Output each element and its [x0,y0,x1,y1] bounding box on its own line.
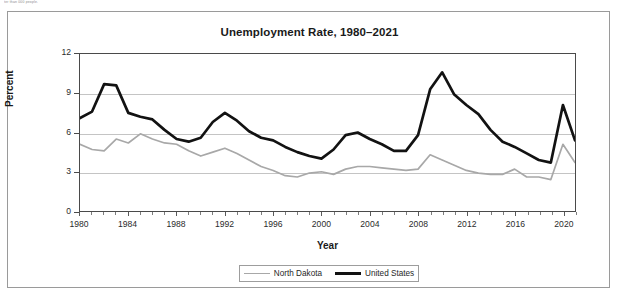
x-tick-mark-2021 [576,212,577,215]
data-series-lines [80,54,575,211]
x-tick-mark-1983 [115,212,116,215]
x-tick-label-2016: 2016 [495,219,535,229]
x-tick-mark-2010 [443,212,444,215]
x-tick-mark-1984 [128,212,129,216]
chart-title: Unemployment Rate, 1980–2021 [8,26,611,38]
x-tick-mark-2015 [503,212,504,215]
y-tick-label-3: 3 [47,166,71,176]
x-tick-mark-1994 [249,212,250,215]
x-tick-mark-1991 [212,212,213,215]
x-tick-mark-2020 [564,212,565,216]
plot-area [79,53,576,212]
x-tick-mark-2001 [334,212,335,215]
x-tick-label-2004: 2004 [350,219,390,229]
x-tick-label-1988: 1988 [156,219,196,229]
y-tick-label-6: 6 [47,127,71,137]
x-tick-label-1980: 1980 [59,219,99,229]
chart-legend: North DakotaUnited States [239,265,419,282]
x-tick-mark-1989 [188,212,189,215]
legend-label: North Dakota [274,269,322,278]
x-tick-mark-1999 [309,212,310,215]
x-tick-mark-1987 [164,212,165,215]
y-tick-label-12: 12 [47,47,71,57]
x-tick-mark-1988 [176,212,177,216]
x-tick-mark-2002 [346,212,347,215]
x-tick-label-1984: 1984 [108,219,148,229]
x-tick-mark-2007 [406,212,407,215]
y-tick-label-9: 9 [47,87,71,97]
x-tick-mark-2000 [321,212,322,216]
legend-swatch-icon [244,273,270,275]
x-tick-mark-2013 [479,212,480,215]
x-tick-mark-2012 [467,212,468,216]
x-tick-mark-2005 [382,212,383,215]
x-tick-mark-2004 [370,212,371,216]
x-tick-label-2008: 2008 [398,219,438,229]
x-tick-label-1996: 1996 [253,219,293,229]
x-tick-mark-1990 [200,212,201,215]
x-tick-label-2000: 2000 [301,219,341,229]
x-tick-label-2020: 2020 [544,219,584,229]
x-tick-mark-1980 [79,212,80,216]
cut-off-header-text: ter than 000 people. [4,0,38,5]
x-tick-mark-1982 [103,212,104,215]
x-tick-mark-2008 [418,212,419,216]
x-tick-mark-2014 [491,212,492,215]
x-tick-mark-1981 [91,212,92,215]
legend-swatch-icon [335,272,361,275]
series-line-united-states [80,72,575,162]
figure-frame: Unemployment Rate, 1980–2021 Percent 036… [7,11,610,288]
x-tick-mark-2006 [394,212,395,215]
x-tick-mark-2003 [358,212,359,215]
x-tick-mark-1985 [140,212,141,215]
x-tick-mark-1995 [261,212,262,215]
x-tick-mark-2011 [455,212,456,215]
legend-item-united-states[interactable]: United States [335,269,414,278]
y-tick-label-0: 0 [47,206,71,216]
x-tick-mark-2016 [515,212,516,216]
legend-label: United States [365,269,414,278]
x-tick-mark-1986 [152,212,153,215]
x-tick-mark-2017 [528,212,529,215]
x-tick-label-1992: 1992 [205,219,245,229]
x-tick-mark-2018 [540,212,541,215]
x-tick-mark-1998 [297,212,298,215]
x-tick-mark-1997 [285,212,286,215]
x-tick-label-2012: 2012 [447,219,487,229]
y-axis-label: Percent [4,70,15,107]
x-axis-label: Year [79,240,576,251]
x-tick-mark-2009 [431,212,432,215]
x-tick-mark-1992 [225,212,226,216]
x-tick-mark-1993 [237,212,238,215]
x-tick-mark-2019 [552,212,553,215]
x-tick-mark-1996 [273,212,274,216]
legend-item-north-dakota[interactable]: North Dakota [244,269,322,278]
